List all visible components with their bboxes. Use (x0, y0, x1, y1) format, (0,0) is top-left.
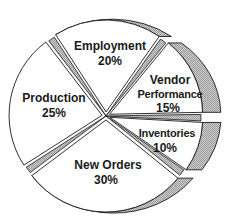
new-orders-label: New Orders (74, 158, 142, 172)
employment-label: Employment (74, 39, 146, 53)
pie-chart: Employment 20% Vendor Performance 15% In… (0, 0, 240, 223)
production-label: Production (22, 91, 85, 105)
vendor-performance-percent: 15% (156, 101, 180, 115)
vendor-performance-label-line1: Vendor (150, 73, 191, 87)
inventories-label: Inventories (139, 127, 196, 139)
new-orders-percent: 30% (94, 173, 118, 187)
employment-percent: 20% (98, 54, 122, 68)
production-percent: 25% (42, 106, 66, 120)
vendor-performance-label-line2: Performance (137, 88, 202, 100)
inventories-percent: 10% (153, 141, 177, 155)
